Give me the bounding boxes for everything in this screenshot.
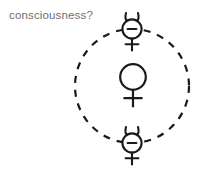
center-venus-symbol [120,64,146,106]
top-mercury-symbol [122,13,141,51]
orbit-diagram [0,0,210,176]
bottom-mercury-symbol [122,127,141,165]
diagram-canvas: consciousness? [0,0,210,176]
venus-circle-icon [120,64,146,90]
